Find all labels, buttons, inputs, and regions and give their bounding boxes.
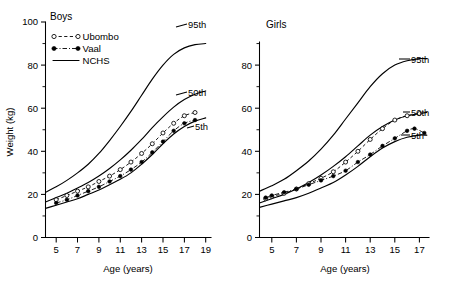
filled-circle-icon (108, 180, 112, 184)
boys-x-ticklabels: 5 7 9 11 13 15 17 19 (54, 244, 211, 255)
filled-circle-icon (76, 194, 80, 198)
filled-circle-icon (381, 144, 385, 148)
y-axis-title: Weight (kg) (4, 108, 15, 157)
boys-xtick-17: 17 (179, 244, 190, 255)
filled-circle-icon (344, 169, 348, 173)
girls-xtick-15: 15 (390, 244, 401, 255)
filled-circle-icon (54, 201, 58, 205)
filled-circle-icon (140, 160, 144, 164)
filled-circle-icon (264, 196, 268, 200)
filled-circle-icon (183, 121, 187, 125)
filled-circle-icon (129, 168, 133, 172)
girls-ytick-0: 0 (247, 232, 252, 243)
girls-x-ticklabels: 5 7 9 11 13 15 17 (269, 244, 425, 255)
girls-label-5th: 5th (411, 130, 424, 141)
filled-circle-icon (282, 190, 286, 194)
filled-circle-icon (86, 189, 90, 193)
filled-circle-icon (356, 160, 360, 164)
open-circle-icon (52, 34, 56, 38)
girls-plot: 80 60 40 20 0 5 7 9 11 13 (221, 0, 449, 284)
filled-circle-icon (97, 185, 101, 189)
panel-girls: 80 60 40 20 0 5 7 9 11 13 (221, 0, 449, 284)
girls-curve-group (260, 58, 427, 207)
open-circle-icon (140, 151, 144, 155)
boys-annotations: 95th 50th 5th (176, 19, 208, 133)
boys-label-95th: 95th (188, 19, 206, 30)
boys-xtick-5: 5 (54, 244, 59, 255)
open-circle-icon (97, 179, 101, 183)
boys-ytick-40: 40 (27, 146, 38, 157)
girls-label-95th: 95th (411, 54, 429, 65)
open-circle-icon (76, 34, 80, 38)
boys-axis-lines (46, 22, 212, 238)
boys-x-axis-title: Age (years) (103, 263, 153, 274)
boys-ytick-20: 20 (27, 189, 38, 200)
open-circle-icon (344, 160, 348, 164)
girls-y-major-ticks (255, 65, 260, 237)
legend-label-vaal: Vaal (83, 43, 102, 54)
boys-ytick-60: 60 (27, 103, 38, 114)
boys-xtick-15: 15 (158, 244, 169, 255)
boys-y-ticklabels: 100 80 60 40 20 0 (22, 16, 38, 243)
boys-curve-group (46, 44, 206, 209)
legend-label-nchs: NCHS (83, 55, 110, 66)
filled-circle-icon (65, 198, 69, 202)
girls-xtick-7: 7 (294, 244, 299, 255)
filled-circle-icon (332, 174, 336, 178)
open-circle-icon (331, 170, 335, 174)
filled-circle-icon (76, 46, 80, 50)
open-circle-icon (76, 189, 80, 193)
girls-ytick-80: 80 (241, 60, 252, 71)
open-circle-icon (368, 137, 372, 141)
boys-label-5th: 5th (195, 121, 208, 132)
open-circle-icon (161, 131, 165, 135)
curve-ubombo (266, 114, 420, 199)
filled-circle-icon (295, 187, 299, 191)
filled-circle-icon (161, 140, 165, 144)
girls-ytick-60: 60 (241, 103, 252, 114)
girls-xtick-9: 9 (318, 244, 323, 255)
boys-x-ticks (56, 238, 206, 243)
legend-item-vaal[interactable]: Vaal (52, 43, 101, 54)
open-circle-icon (381, 127, 385, 131)
boys-ytick-0: 0 (33, 232, 38, 243)
girls-axis-lines (260, 42, 430, 238)
filled-circle-icon (52, 46, 56, 50)
girls-xtick-13: 13 (365, 244, 376, 255)
open-circle-icon (193, 111, 197, 115)
boys-ytick-80: 80 (27, 60, 38, 71)
curve-nchs-95th (260, 58, 427, 191)
open-circle-icon (182, 114, 186, 118)
legend-item-nchs[interactable]: NCHS (53, 55, 110, 66)
open-circle-icon (150, 142, 154, 146)
filled-circle-icon (405, 129, 409, 133)
curve-nchs-50th (260, 113, 427, 204)
boys-plot: 100 80 60 40 20 0 Weight (kg) (0, 0, 228, 284)
open-circle-icon (393, 118, 397, 122)
growth-chart-figure: 100 80 60 40 20 0 Weight (kg) (0, 0, 449, 284)
open-circle-icon (65, 193, 69, 197)
open-circle-icon (356, 149, 360, 153)
boys-xtick-13: 13 (136, 244, 147, 255)
legend-label-ubombo: Ubombo (83, 31, 119, 42)
girls-y-ticklabels: 80 60 40 20 0 (241, 60, 252, 243)
legend: Ubombo Vaal NCHS (52, 31, 119, 66)
filled-circle-icon (319, 179, 323, 183)
boys-xtick-7: 7 (75, 244, 80, 255)
girls-x-axis-title: Age (years) (320, 263, 370, 274)
open-circle-icon (108, 174, 112, 178)
legend-item-ubombo[interactable]: Ubombo (52, 31, 119, 42)
girls-ytick-40: 40 (241, 146, 252, 157)
girls-x-ticks (272, 238, 420, 243)
filled-circle-icon (172, 129, 176, 133)
boys-label-50th: 50th (188, 87, 206, 98)
girls-ytick-20: 20 (241, 189, 252, 200)
panel-boys: 100 80 60 40 20 0 Weight (kg) (0, 0, 228, 284)
filled-circle-icon (151, 151, 155, 155)
boys-panel-title: Boys (50, 11, 72, 22)
curve-nchs-50th (46, 91, 206, 202)
filled-circle-icon (270, 194, 274, 198)
boys-xtick-9: 9 (96, 244, 101, 255)
filled-circle-icon (118, 174, 122, 178)
filled-circle-icon (307, 183, 311, 187)
